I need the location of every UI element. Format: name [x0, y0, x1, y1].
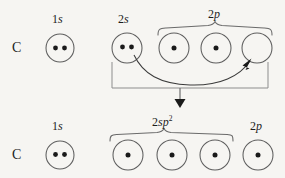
electron-dot [62, 46, 67, 51]
orbital-1s-hybrid [46, 141, 74, 169]
orbital-circle [112, 33, 142, 63]
label-2sp2-orbital: sp [158, 115, 169, 129]
orbital-hybridization-diagram: C 1s 2s 2p C 1s 2sp2 2p [0, 0, 285, 178]
electron-dot [256, 153, 261, 158]
row-hybridized-state [46, 129, 273, 171]
label-2p-hybrid-orbital: p [256, 119, 262, 133]
label-2p-ground-orbital: p [214, 7, 220, 21]
orbital-1s-ground [46, 34, 74, 62]
electron-dot [126, 153, 131, 158]
electron-dot [172, 46, 177, 51]
label-2sp2-hybrid: 2sp2 [152, 116, 172, 128]
brace-2sp2 [110, 129, 233, 142]
label-1s-hybrid: 1s [52, 120, 63, 132]
electron-dot [53, 152, 58, 157]
label-2s-ground-orbital: s [124, 12, 129, 26]
orbital-2p-ground-2 [201, 33, 231, 63]
electron-dot [129, 45, 134, 50]
electron-dot [214, 46, 219, 51]
diagram-canvas [0, 0, 285, 178]
label-2p-ground: 2p [208, 8, 220, 20]
down-arrow-head [175, 99, 186, 108]
electron-dot [53, 46, 58, 51]
row-ground-state [46, 22, 272, 64]
orbital-2sp2-3 [200, 140, 230, 170]
atom-symbol-hybrid-state: C [12, 148, 21, 162]
orbital-2sp2-2 [157, 140, 187, 170]
orbital-2p-ground-1 [159, 33, 189, 63]
atom-symbol-ground-state: C [12, 41, 21, 55]
electron-dot [120, 45, 125, 50]
electron-promotion-arrow [134, 55, 252, 85]
orbital-circle [242, 33, 272, 63]
label-1s-ground-orbital: s [58, 12, 63, 26]
electron-dot [213, 153, 218, 158]
label-2sp2-exponent: 2 [169, 114, 173, 123]
orbital-2s-ground [112, 33, 142, 63]
orbital-2sp2-1 [113, 140, 143, 170]
hybridization-down-arrow [175, 88, 186, 108]
orbital-circle [46, 141, 74, 169]
electron-dot [170, 153, 175, 158]
orbital-2p-hybrid-remaining [243, 140, 273, 170]
label-2s-ground: 2s [118, 13, 129, 25]
orbital-2p-ground-3-empty [242, 33, 272, 63]
orbital-circle [46, 34, 74, 62]
promotion-arrow-curve [134, 55, 250, 85]
label-1s-ground: 1s [52, 13, 63, 25]
label-2p-hybrid: 2p [250, 120, 262, 132]
electron-dot [62, 152, 67, 157]
label-1s-hybrid-orbital: s [58, 119, 63, 133]
